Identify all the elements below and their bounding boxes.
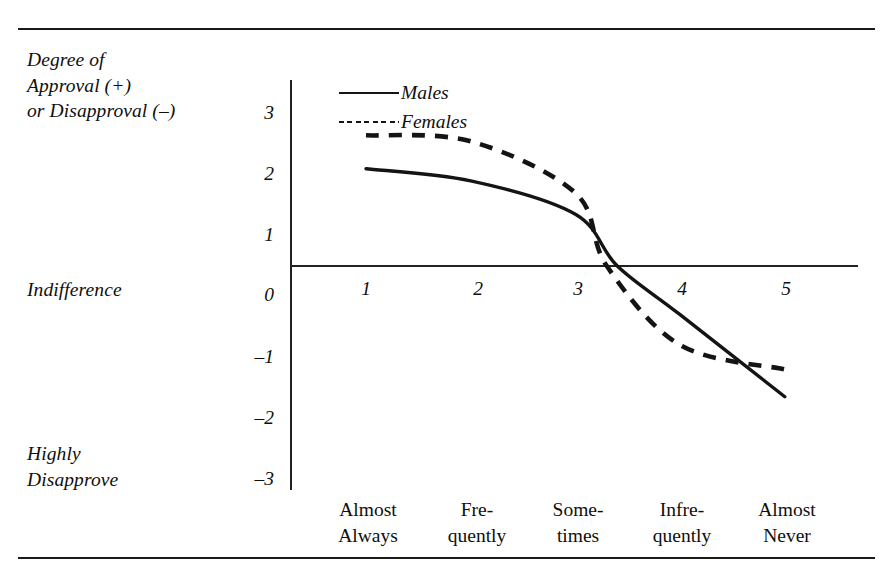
x-tick-3: 3 xyxy=(548,278,608,300)
x-tick-4: 4 xyxy=(652,278,712,300)
category-line-2: Never xyxy=(722,523,852,549)
x-tick-5: 5 xyxy=(756,278,816,300)
category-line-1: Some- xyxy=(553,499,604,520)
legend-label-females: Females xyxy=(401,111,467,132)
category-line-1: Almost xyxy=(339,499,396,520)
category-labels: Almost Always Fre- quently Some- times I… xyxy=(0,497,893,557)
x-tick-1: 1 xyxy=(336,278,396,300)
category-line-1: Fre- xyxy=(461,499,494,520)
category-line-1: Infre- xyxy=(660,499,704,520)
chart-legend: Males Females xyxy=(338,82,568,144)
legend-item-females: Females xyxy=(338,111,467,137)
legend-swatch-dashed-line-icon xyxy=(338,116,400,128)
legend-item-males: Males xyxy=(338,82,449,108)
legend-swatch-solid-line-icon xyxy=(338,87,400,99)
legend-label-males: Males xyxy=(401,82,449,103)
category-label-almost-never: Almost Never xyxy=(722,497,852,549)
chart-figure: Degree of Approval (+) or Disapproval (–… xyxy=(0,0,893,579)
x-tick-2: 2 xyxy=(448,278,508,300)
category-line-1: Almost xyxy=(758,499,815,520)
